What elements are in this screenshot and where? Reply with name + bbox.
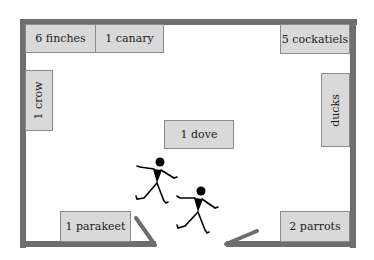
person-2-icon [177,187,218,234]
door-left-leaf [136,218,155,245]
door-right-leaf [226,231,257,244]
person-1-icon [136,158,177,204]
door [136,218,257,245]
overlay-drawing [0,0,374,260]
